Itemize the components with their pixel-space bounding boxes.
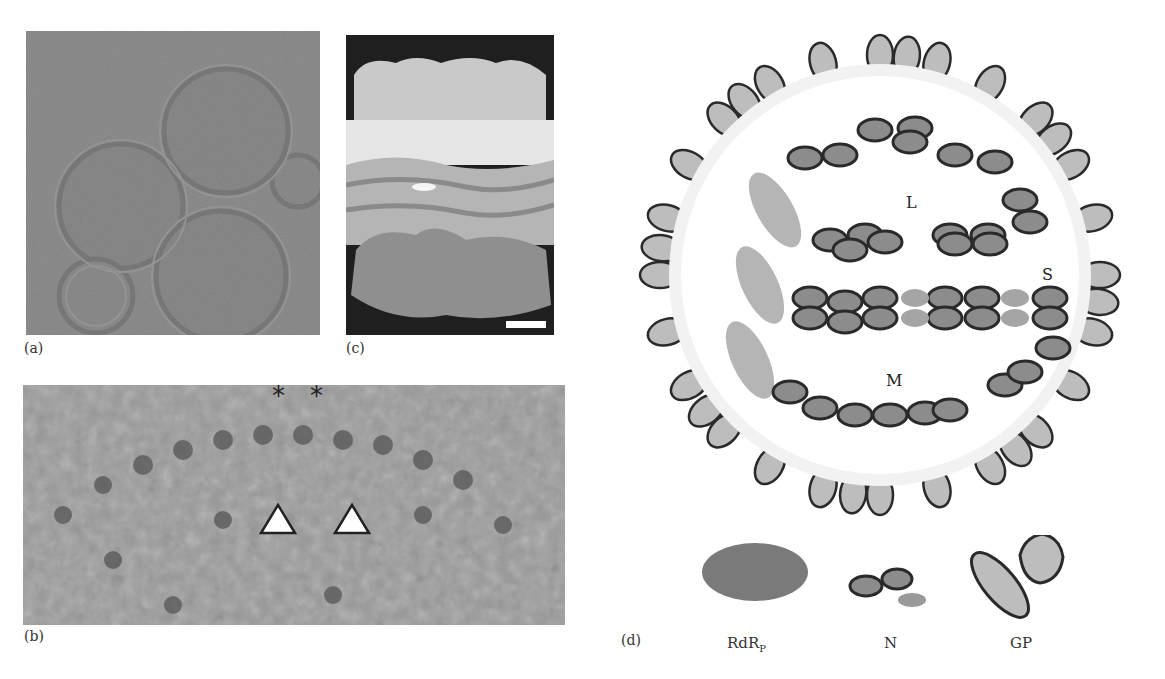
segment-label-s: S	[1042, 265, 1053, 284]
surface-render-image	[346, 35, 554, 335]
asterisk-marker-1: *	[272, 385, 285, 411]
panel-label-a: (a)	[24, 340, 43, 356]
legend-shapes	[690, 535, 1120, 625]
legend: RdRP N GP	[690, 535, 1120, 665]
gp-legend-icon	[962, 535, 1063, 625]
micrograph-a-image	[26, 31, 320, 335]
legend-label-rdrp: RdRP	[727, 634, 766, 654]
panel-a-micrograph	[26, 31, 320, 335]
n-label: N	[884, 634, 897, 652]
panel-label-c: (c)	[346, 340, 365, 356]
gp-label: GP	[1010, 634, 1032, 652]
rdrp-legend-icon	[702, 543, 808, 601]
arrowhead-icon-1	[258, 502, 298, 536]
virion-schematic: L S M	[610, 30, 1130, 530]
legend-label-gp: GP	[1010, 634, 1032, 652]
legend-label-n: N	[884, 634, 897, 652]
arrowhead-icon-2	[332, 502, 372, 536]
panel-label-d: (d)	[621, 632, 641, 648]
panel-label-b: (b)	[24, 628, 44, 644]
n-legend-icon	[850, 569, 912, 596]
rdrp-subscript: P	[759, 643, 766, 654]
segment-label-l: L	[906, 193, 917, 212]
segment-label-m: M	[886, 371, 902, 390]
panel-c-surface-rendering	[346, 35, 554, 335]
panel-b-micrograph-closeup: * *	[23, 385, 565, 625]
asterisk-marker-2: *	[310, 385, 323, 411]
rdrp-label: RdR	[727, 634, 759, 652]
panel-d-schematic: L S M	[610, 30, 1130, 530]
